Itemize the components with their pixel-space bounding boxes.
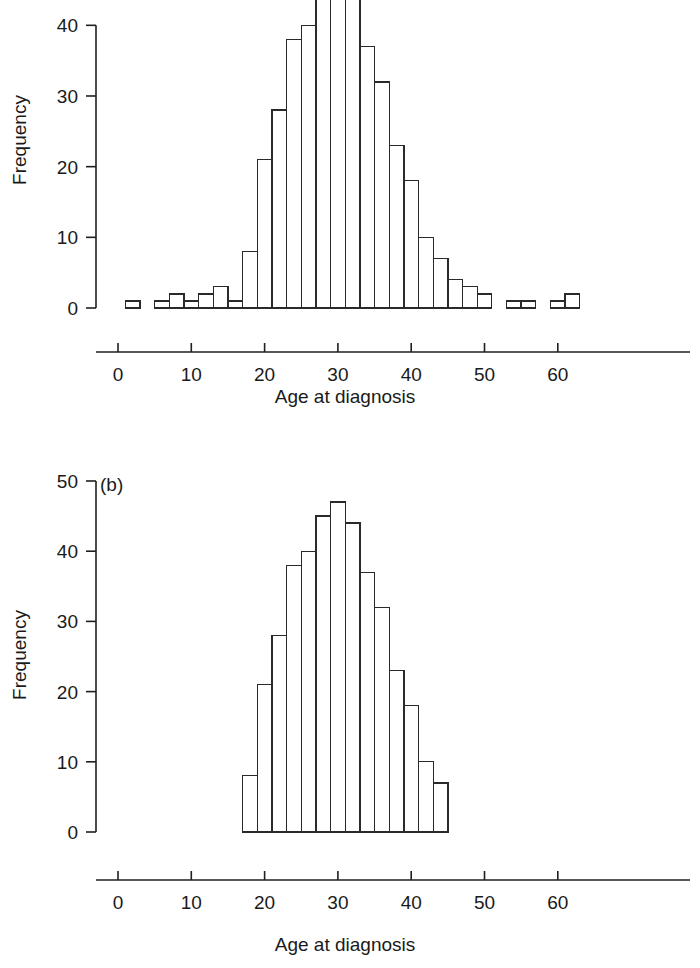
panel-b: 01020304050 0102030405060 Frequency Age … [0, 440, 700, 968]
histogram-bar [463, 287, 478, 308]
x-tick-label-30: 30 [327, 892, 348, 913]
histogram-bar [389, 671, 404, 832]
histogram-bar [272, 635, 287, 832]
histogram-bar [228, 301, 243, 308]
histogram-bar [521, 301, 536, 308]
y-tick-label-0: 0 [67, 822, 78, 843]
histogram-bar [316, 0, 331, 308]
panel-b-x-axis-label: Age at diagnosis [275, 934, 416, 955]
x-tick-label-10: 10 [181, 364, 202, 385]
x-tick-label-20: 20 [254, 892, 275, 913]
x-tick-label-0: 0 [113, 892, 124, 913]
histogram-bar [506, 301, 521, 308]
y-tick-label-40: 40 [57, 15, 78, 36]
x-tick-label-50: 50 [474, 364, 495, 385]
panel-b-chart: 01020304050 0102030405060 Frequency Age … [0, 440, 700, 968]
panel-b-tag: (b) [100, 474, 123, 495]
panel-a-bars [125, 0, 579, 308]
x-tick-label-40: 40 [401, 892, 422, 913]
histogram-bar [199, 294, 214, 308]
histogram-bar [184, 301, 199, 308]
y-tick-label-0: 0 [67, 298, 78, 319]
histogram-bar [419, 237, 434, 308]
histogram-bar [404, 181, 419, 308]
panel-a-y-axis-label: Frequency [9, 95, 30, 185]
histogram-bar [213, 287, 228, 308]
histogram-bar [155, 301, 170, 308]
histogram-bar [287, 39, 302, 308]
x-tick-label-20: 20 [254, 364, 275, 385]
x-tick-label-50: 50 [474, 892, 495, 913]
histogram-bar [345, 523, 360, 832]
panel-a-chart: 010203040 0102030405060 Frequency Age at… [0, 0, 700, 420]
histogram-bar [360, 572, 375, 832]
histogram-bar [243, 776, 258, 832]
histogram-bar [301, 551, 316, 832]
panel-b-bars [243, 502, 448, 832]
x-tick-label-40: 40 [401, 364, 422, 385]
histogram-bar [345, 0, 360, 308]
histogram-bar [565, 294, 580, 308]
histogram-bar [287, 565, 302, 832]
histogram-bar [257, 160, 272, 308]
y-tick-label-10: 10 [57, 752, 78, 773]
histogram-bar [477, 294, 492, 308]
histogram-bar [243, 251, 258, 308]
y-tick-label-30: 30 [57, 86, 78, 107]
histogram-bar [375, 607, 390, 832]
y-tick-label-30: 30 [57, 611, 78, 632]
two-panel-histogram-figure: 010203040 0102030405060 Frequency Age at… [0, 0, 700, 968]
histogram-bar [448, 280, 463, 308]
histogram-bar [301, 25, 316, 308]
panel-a-y-axis: 010203040 [57, 15, 96, 319]
histogram-bar [550, 301, 565, 308]
panel-b-y-axis: 01020304050 [57, 471, 96, 843]
histogram-bar [257, 685, 272, 832]
panel-a-x-axis: 0102030405060 [96, 343, 690, 385]
histogram-bar [331, 502, 346, 832]
y-tick-label-50: 50 [57, 471, 78, 492]
histogram-bar [272, 110, 287, 308]
x-tick-label-60: 60 [547, 892, 568, 913]
panel-a: 010203040 0102030405060 Frequency Age at… [0, 0, 700, 420]
panel-b-y-axis-label: Frequency [9, 610, 30, 700]
x-tick-label-60: 60 [547, 364, 568, 385]
histogram-bar [404, 706, 419, 832]
histogram-bar [169, 294, 184, 308]
panel-a-x-axis-label: Age at diagnosis [275, 386, 416, 407]
x-tick-label-10: 10 [181, 892, 202, 913]
y-tick-label-20: 20 [57, 682, 78, 703]
x-tick-label-0: 0 [113, 364, 124, 385]
histogram-bar [433, 259, 448, 308]
histogram-bar [316, 516, 331, 832]
y-tick-label-10: 10 [57, 227, 78, 248]
histogram-bar [331, 0, 346, 308]
histogram-bar [125, 301, 140, 308]
y-tick-label-40: 40 [57, 541, 78, 562]
histogram-bar [375, 82, 390, 308]
histogram-bar [360, 47, 375, 308]
histogram-bar [433, 783, 448, 832]
x-tick-label-30: 30 [327, 364, 348, 385]
histogram-bar [419, 762, 434, 832]
y-tick-label-20: 20 [57, 157, 78, 178]
histogram-bar [389, 145, 404, 308]
panel-b-x-axis: 0102030405060 [96, 871, 690, 913]
